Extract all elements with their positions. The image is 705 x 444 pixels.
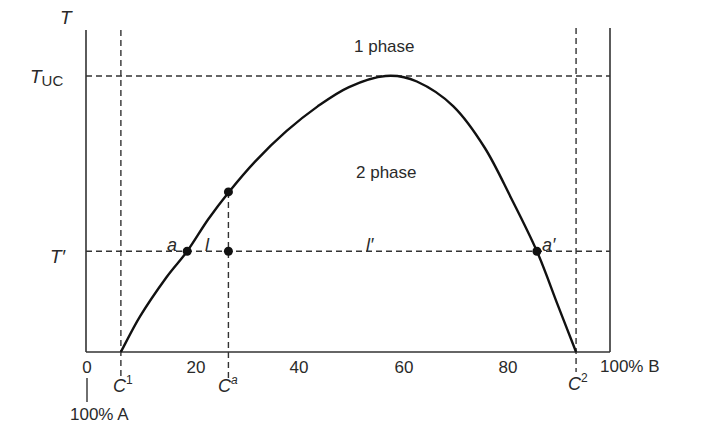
x-tick-label-20: 20 <box>187 358 206 377</box>
ca-label: Ca <box>218 373 238 396</box>
coexistence-curve <box>121 76 576 352</box>
x-label-right: 100% B <box>600 357 660 376</box>
point-a-prime-label: a′ <box>542 235 556 255</box>
point-a <box>183 247 192 256</box>
y-axis-label: T <box>60 7 73 28</box>
t-uc-label: TUC <box>30 66 63 89</box>
region-2-phase-label: 2 phase <box>356 163 417 182</box>
c1-label: C1 <box>113 373 133 396</box>
x-tick-label-0: 0 <box>82 358 91 377</box>
x-label-left: 100% A <box>70 405 129 424</box>
t-uc-sub: UC <box>42 72 64 89</box>
point-overall-composition <box>224 247 233 256</box>
x-tick-label-80: 80 <box>499 358 518 377</box>
phase-diagram: T TUC T′ 1 phase 2 phase a l l′ a′ 0 20 … <box>0 0 705 444</box>
c2-sup: 2 <box>581 371 588 385</box>
c1-sup: 1 <box>126 373 133 387</box>
x-tick-label-40: 40 <box>290 358 309 377</box>
c1-main: C <box>113 376 127 396</box>
segment-l-label: l <box>205 235 210 255</box>
point-on-curve-at-ca <box>224 187 233 196</box>
region-1-phase-label: 1 phase <box>354 37 415 56</box>
ca-main: C <box>218 376 232 396</box>
x-tick-label-60: 60 <box>395 358 414 377</box>
point-a-label: a <box>167 235 177 255</box>
c2-main: C <box>568 374 582 394</box>
point-a-prime <box>532 247 541 256</box>
ca-sup: a <box>231 373 238 387</box>
c2-label: C2 <box>568 371 588 394</box>
segment-l-prime-label: l′ <box>366 235 374 255</box>
t-prime-label: T′ <box>50 246 67 267</box>
